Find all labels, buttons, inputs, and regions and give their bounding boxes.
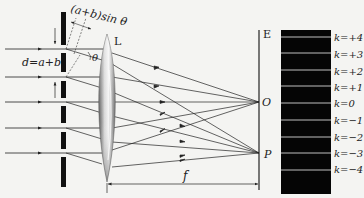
fringe-pattern	[281, 30, 331, 194]
lens-label: L	[114, 35, 122, 48]
order-label: k=+3	[334, 49, 363, 60]
order-label: k=−2	[334, 132, 363, 143]
point-O-label: O	[262, 96, 271, 109]
order-label: k=−4	[334, 164, 363, 175]
grating-constant-label: d=a+b	[22, 56, 61, 69]
point-P-label: P	[263, 148, 272, 161]
path-difference-construction	[66, 18, 91, 77]
angle-label: θ	[92, 52, 98, 63]
diffracted-rays	[66, 49, 102, 164]
order-label: k=+1	[334, 82, 363, 93]
screen-label: E	[263, 28, 271, 41]
order-label: k=+2	[334, 66, 363, 77]
order-label: k=−3	[334, 148, 363, 159]
order-label: k=−1	[334, 115, 363, 126]
order-labels: k=+4 k=+3 k=+2 k=+1 k=0 k=−1 k=−2 k=−3 k…	[334, 32, 363, 175]
focal-length-dimension	[107, 183, 258, 193]
diffraction-grating	[61, 12, 66, 187]
focused-rays	[112, 53, 259, 167]
diffraction-diagram: (a+b)sin θ d=a+b θ L E O P f k=+4 k=+3 k…	[0, 0, 364, 198]
focal-length-label: f	[182, 169, 190, 183]
path-difference-label: (a+b)sin θ	[69, 2, 129, 29]
converging-lens	[99, 34, 116, 182]
order-label: k=0	[334, 98, 355, 109]
order-label: k=+4	[334, 32, 363, 43]
